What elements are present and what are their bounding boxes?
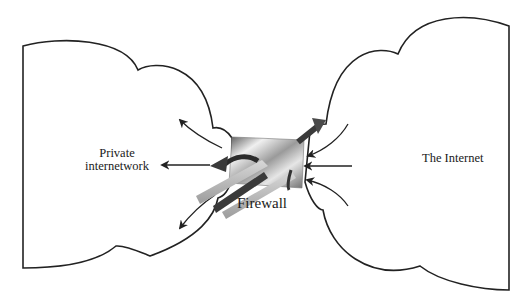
internet-label: The Internet bbox=[422, 152, 483, 165]
arrow-to-private-lower bbox=[180, 195, 215, 228]
firewall-label: Firewall bbox=[237, 196, 287, 212]
arrow-to-private-upper bbox=[180, 120, 222, 148]
diagram-canvas: Private internetwork The Internet Firewa… bbox=[0, 0, 525, 302]
private-internetwork-label: Private internetwork bbox=[62, 147, 172, 173]
private-label-line2: internetwork bbox=[62, 160, 172, 173]
